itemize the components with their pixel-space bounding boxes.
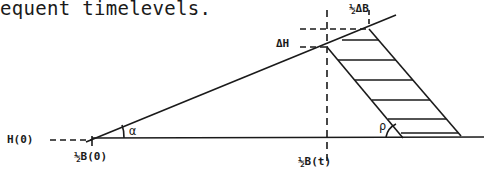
slope-line: [86, 15, 396, 142]
h0-label: H(0): [7, 133, 34, 146]
delta-h-label: ΔH: [276, 37, 289, 50]
rho-arc: [386, 124, 396, 137]
half-bt-label: ½B(t): [298, 155, 331, 168]
half-b0-label: ½B(0): [74, 150, 107, 163]
diagram-canvas: equent timelevels.: [0, 0, 496, 174]
half-delta-b-label: ½ΔB: [349, 2, 369, 15]
geometry-figure: [0, 0, 496, 174]
baseline: [92, 137, 484, 138]
alpha-label: α: [129, 124, 136, 138]
rho-label: ρ: [379, 119, 386, 133]
